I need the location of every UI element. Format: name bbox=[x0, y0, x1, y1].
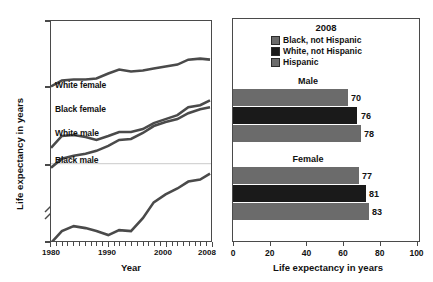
line-chart-panel: Life expectancy in years 100 80 60 0 bbox=[0, 0, 220, 282]
group-label-female: Female bbox=[233, 154, 383, 164]
bar-female-white bbox=[233, 185, 366, 202]
x-tick-mark-2002 bbox=[177, 242, 178, 246]
legend-swatch-white bbox=[271, 47, 280, 56]
x-tick-mark-1981 bbox=[56, 242, 57, 246]
x-tick-mark-1998 bbox=[154, 242, 155, 246]
bar-male-black bbox=[233, 89, 348, 106]
x-tick-mark-1991 bbox=[114, 242, 115, 246]
x-tick-mark-2005 bbox=[195, 242, 196, 246]
line-chart-y-axis-label: Life expectancy in years bbox=[14, 98, 25, 210]
bar-value-female-black: 77 bbox=[362, 171, 372, 181]
x-tick-mark-1983 bbox=[67, 242, 68, 246]
bar-female-black bbox=[233, 167, 359, 184]
series-line-black-male bbox=[51, 174, 210, 241]
legend-swatch-black bbox=[271, 36, 280, 45]
x-tick-label-2000: 2000 bbox=[143, 248, 183, 257]
bar-value-male-hispanic: 78 bbox=[364, 129, 374, 139]
x-tick-mark-1990 bbox=[108, 242, 109, 247]
x-tick-mark-2003 bbox=[183, 242, 184, 246]
legend-label-hispanic: Hispanic bbox=[283, 57, 318, 68]
group-label-male: Male bbox=[233, 76, 383, 86]
series-label-white-male: White male bbox=[55, 128, 99, 138]
series-label-white-female: White female bbox=[55, 80, 106, 90]
x-tick-mark-1995 bbox=[137, 242, 138, 246]
series-label-black-female: Black female bbox=[55, 104, 106, 114]
legend-label-black: Black, not Hispanic bbox=[283, 35, 361, 46]
bar-x-tick-mark-60 bbox=[343, 242, 344, 246]
bar-female-hispanic bbox=[233, 203, 369, 220]
x-tick-mark-2001 bbox=[172, 242, 173, 246]
x-tick-mark-1993 bbox=[125, 242, 126, 246]
bar-x-tick-label-60: 60 bbox=[328, 248, 358, 258]
bar-x-tick-mark-80 bbox=[380, 242, 381, 246]
bar-value-male-black: 70 bbox=[351, 93, 361, 103]
bar-x-tick-mark-20 bbox=[270, 242, 271, 246]
bar-male-white bbox=[233, 107, 357, 124]
x-tick-mark-1985 bbox=[79, 242, 80, 246]
bar-x-tick-label-100: 100 bbox=[402, 248, 432, 258]
legend-item-hispanic: Hispanic bbox=[271, 57, 318, 68]
legend-item-white: White, not Hispanic bbox=[271, 46, 362, 57]
x-tick-mark-2007 bbox=[206, 242, 207, 246]
x-tick-mark-1997 bbox=[148, 242, 149, 246]
legend-item-black: Black, not Hispanic bbox=[271, 35, 361, 46]
bar-x-tick-mark-0 bbox=[233, 242, 234, 246]
legend-label-white: White, not Hispanic bbox=[283, 46, 362, 57]
bar-value-female-hispanic: 83 bbox=[372, 207, 382, 217]
series-label-black-male: Black male bbox=[55, 155, 98, 165]
bar-chart-legend: 2008 Black, not Hispanic White, not Hisp… bbox=[233, 19, 419, 68]
figure-two-panel-life-expectancy: Life expectancy in years 100 80 60 0 bbox=[0, 0, 433, 282]
x-tick-mark-2008 bbox=[212, 242, 213, 247]
bar-x-tick-label-0: 0 bbox=[218, 248, 248, 258]
x-tick-mark-2004 bbox=[189, 242, 190, 246]
x-tick-mark-1980 bbox=[50, 242, 51, 247]
x-tick-mark-2006 bbox=[200, 242, 201, 246]
line-chart-x-axis-label: Year bbox=[50, 262, 212, 273]
legend-swatch-hispanic bbox=[271, 58, 280, 67]
bar-x-tick-mark-40 bbox=[306, 242, 307, 246]
bar-x-tick-label-20: 20 bbox=[255, 248, 285, 258]
bar-x-tick-mark-100 bbox=[417, 242, 418, 246]
x-tick-mark-2000 bbox=[166, 242, 167, 247]
x-tick-mark-1986 bbox=[85, 242, 86, 246]
x-tick-mark-1988 bbox=[96, 242, 97, 246]
x-tick-mark-1996 bbox=[143, 242, 144, 246]
bar-chart-plot-area: 2008 Black, not Hispanic White, not Hisp… bbox=[232, 18, 420, 242]
x-tick-label-1980: 1980 bbox=[31, 248, 71, 257]
x-tick-mark-1999 bbox=[160, 242, 161, 246]
x-tick-mark-1984 bbox=[73, 242, 74, 246]
bar-value-female-white: 81 bbox=[369, 189, 379, 199]
legend-title: 2008 bbox=[233, 22, 419, 33]
x-tick-mark-1987 bbox=[91, 242, 92, 246]
x-tick-mark-1982 bbox=[62, 242, 63, 246]
bar-value-male-white: 76 bbox=[361, 111, 371, 121]
bar-chart-panel: 2008 Black, not Hispanic White, not Hisp… bbox=[228, 0, 433, 282]
x-tick-mark-1992 bbox=[119, 242, 120, 246]
bar-x-tick-label-40: 40 bbox=[291, 248, 321, 258]
x-tick-mark-1989 bbox=[102, 242, 103, 246]
bar-male-hispanic bbox=[233, 125, 361, 142]
bar-x-tick-label-80: 80 bbox=[365, 248, 395, 258]
x-tick-label-1990: 1990 bbox=[87, 248, 127, 257]
x-tick-mark-1994 bbox=[131, 242, 132, 246]
bar-chart-x-axis-label: Life expectancy in years bbox=[228, 262, 428, 273]
